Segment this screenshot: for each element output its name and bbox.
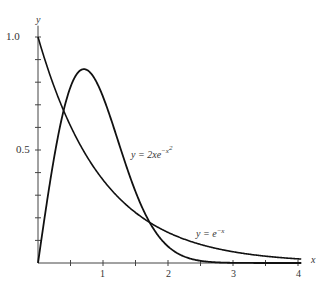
x-tick-label-1: 1 <box>100 268 105 279</box>
x-tick-label-4: 4 <box>296 268 301 279</box>
x-tick-label-2: 2 <box>166 268 171 279</box>
curve-label-exp: y = e−x <box>196 227 224 239</box>
curve-label-gauss: y = 2xe−x2 <box>131 144 172 160</box>
y-tick-label-1: 1.0 <box>6 30 20 42</box>
x-axis-label: x <box>311 254 315 265</box>
y-tick-label-05: 0.5 <box>16 143 30 155</box>
x-tick-label-3: 3 <box>231 268 236 279</box>
y-axis-label: y <box>36 14 40 25</box>
